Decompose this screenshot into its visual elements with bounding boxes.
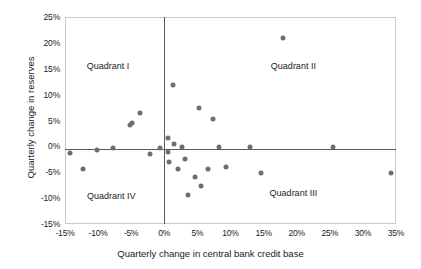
- data-point: [94, 148, 99, 153]
- quadrant-label: Quadrant II: [271, 61, 316, 71]
- data-point: [196, 106, 201, 111]
- data-point: [129, 120, 134, 125]
- x-axis-tick-labels: -15%-10%-5%0%5%10%15%20%25%30%35%: [0, 228, 421, 242]
- data-point: [192, 175, 197, 180]
- data-point: [166, 150, 171, 155]
- data-point: [199, 183, 204, 188]
- data-point: [170, 83, 175, 88]
- data-point: [258, 171, 263, 176]
- y-tick-label: 25%: [26, 12, 60, 22]
- data-point: [331, 145, 336, 150]
- quadrant-label: Quadrant I: [87, 61, 130, 71]
- data-point: [166, 136, 171, 141]
- data-point: [211, 117, 216, 122]
- data-point: [147, 152, 152, 157]
- data-point: [179, 145, 184, 150]
- data-point: [172, 142, 177, 147]
- data-point: [68, 151, 73, 156]
- data-point: [280, 35, 285, 40]
- scatter-chart: Quadrant IQuadrant IIQuadrant IIIQuadran…: [0, 0, 421, 269]
- x-tick-label: 35%: [376, 228, 416, 238]
- data-point: [223, 165, 228, 170]
- y-axis-title: Quarterly change in reserves: [25, 28, 36, 208]
- quadrant-label: Quadrant IV: [87, 191, 136, 201]
- data-point: [111, 145, 116, 150]
- data-point: [216, 144, 221, 149]
- data-point: [183, 156, 188, 161]
- data-point: [389, 170, 394, 175]
- data-point: [80, 166, 85, 171]
- data-point: [176, 167, 181, 172]
- x-axis-title: Quarterly change in central bank credit …: [0, 248, 421, 259]
- data-point: [138, 111, 143, 116]
- data-point: [186, 192, 191, 197]
- y-zero-axis-line: [164, 17, 165, 224]
- data-point: [158, 145, 163, 150]
- data-point: [205, 166, 210, 171]
- data-point: [166, 159, 171, 164]
- data-point: [248, 145, 253, 150]
- quadrant-label: Quadrant III: [270, 188, 318, 198]
